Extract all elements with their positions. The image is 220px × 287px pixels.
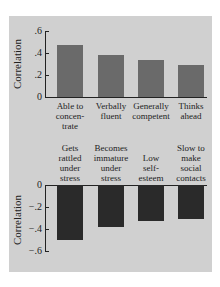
y-axis-bottom <box>45 185 46 252</box>
y-tick-label-bottom: −.4 <box>24 223 42 234</box>
y-tick-top <box>45 75 49 76</box>
bar <box>138 185 164 221</box>
y-tick-label-top: .2 <box>24 69 42 80</box>
bar <box>57 185 83 240</box>
y-axis-label-top: Correlation <box>11 39 23 89</box>
y-tick-top <box>45 53 49 54</box>
bar <box>178 65 204 97</box>
y-tick-label-bottom: 0 <box>24 179 42 190</box>
category-label: Able toconcen-trate <box>48 101 92 131</box>
bar <box>57 45 83 97</box>
y-tick-label-top: 0 <box>24 91 42 102</box>
y-tick-label-top: .6 <box>24 25 42 36</box>
bar <box>98 185 124 227</box>
y-tick-bottom <box>45 185 49 186</box>
category-label: Becomesimmatureunderstress <box>89 143 133 183</box>
y-tick-bottom <box>45 207 49 208</box>
bar <box>98 55 124 97</box>
category-label: Thinksahead <box>169 101 213 121</box>
y-axis-label-bottom: Correlation <box>11 195 23 245</box>
bar <box>178 185 204 219</box>
category-label: Generallycompetent <box>129 101 173 121</box>
y-tick-bottom <box>45 251 49 252</box>
y-tick-label-bottom: −.6 <box>24 245 42 256</box>
y-axis-top <box>45 31 46 98</box>
bar <box>138 60 164 97</box>
x-axis-top <box>45 97 207 98</box>
y-tick-top <box>45 97 49 98</box>
category-label: Slow tomakesocialcontacts <box>169 143 213 183</box>
y-tick-top <box>45 31 49 32</box>
category-label: Getsrattledunderstress <box>48 143 92 183</box>
y-tick-bottom <box>45 229 49 230</box>
y-tick-label-top: .4 <box>24 47 42 58</box>
category-label: Verballyfluent <box>89 101 133 121</box>
y-tick-label-bottom: −.2 <box>24 201 42 212</box>
category-label: Lowself-esteem <box>129 153 173 183</box>
